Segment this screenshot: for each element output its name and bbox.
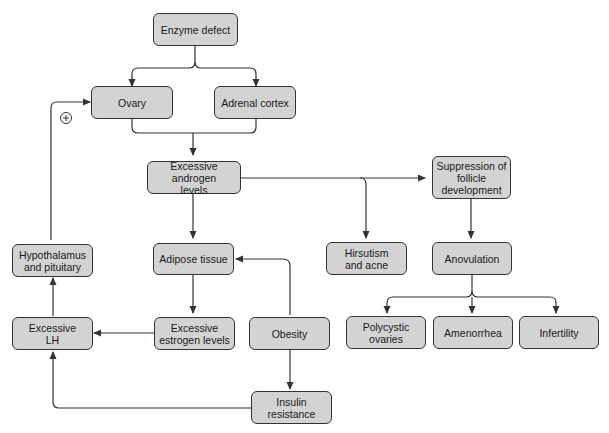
node-excessive-lh: Excessive LH [12, 317, 93, 350]
node-infertility: Infertility [519, 316, 599, 349]
node-excessive-estrogen-levels: Excessive estrogen levels [154, 317, 235, 350]
node-insulin-resistance: Insulin resistance [251, 391, 332, 424]
node-obesity: Obesity [249, 317, 330, 350]
node-polycystic-ovaries: Polycystic ovaries [346, 316, 426, 349]
node-excessive-androgen-levels: Excessive androgen levels [147, 161, 241, 194]
node-enzyme-defect: Enzyme defect [153, 13, 238, 46]
node-amenorrhea: Amenorrhea [433, 316, 513, 349]
node-hypothalamus-pituitary: Hypothalamus and pituitary [12, 244, 93, 277]
node-ovary: Ovary [91, 86, 173, 119]
node-anovulation: Anovulation [432, 242, 512, 275]
node-suppression-of-follicle-development: Suppression of follicle development [432, 156, 511, 199]
connector-lines [0, 0, 609, 433]
node-hirsutism-acne: Hirsutism and acne [326, 242, 407, 275]
positive-feedback-icon [61, 113, 72, 124]
node-adipose-tissue: Adipose tissue [153, 243, 234, 275]
node-adrenal-cortex: Adrenal cortex [214, 86, 296, 119]
pcos-flowchart: Enzyme defect Ovary Adrenal cortex Exces… [0, 0, 609, 433]
